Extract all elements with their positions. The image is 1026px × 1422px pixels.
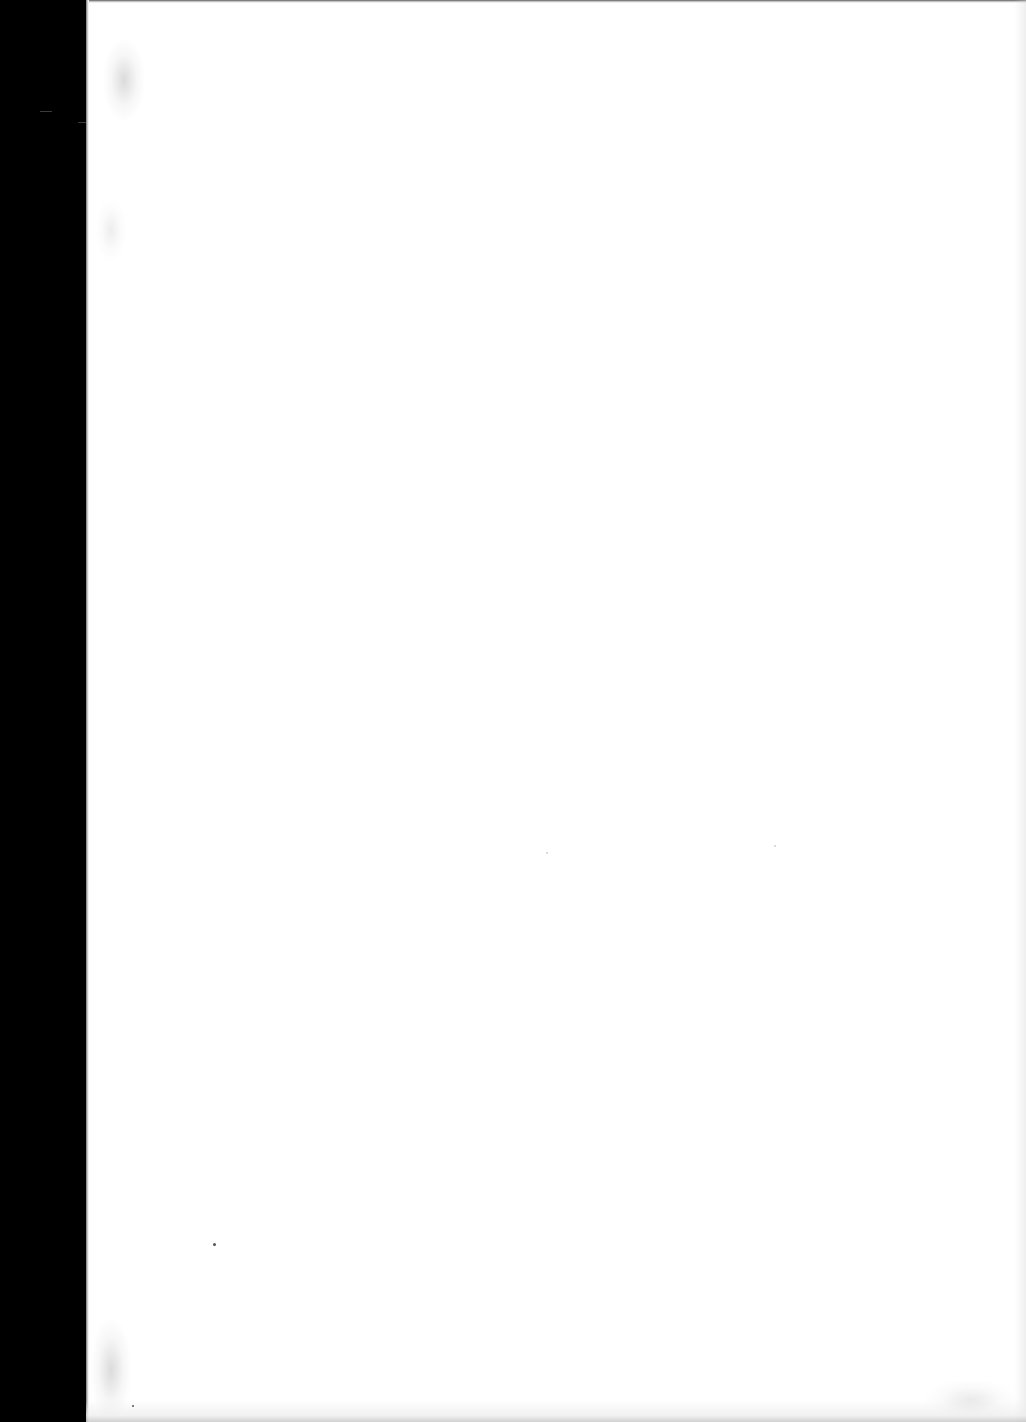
blank-page (86, 0, 1026, 1422)
page-left-edge (86, 0, 89, 1422)
scanned-document (0, 0, 1026, 1422)
scan-dust-speck (213, 1243, 216, 1246)
page-bottom-edge (86, 1400, 1026, 1422)
scan-dust-speck (774, 845, 776, 847)
page-top-edge (86, 0, 1026, 3)
scanner-border (0, 0, 86, 1422)
scan-noise (91, 1320, 131, 1420)
scan-artifact (40, 111, 52, 112)
scan-noise (96, 200, 126, 260)
scan-artifact (78, 122, 86, 123)
scan-dust-speck (546, 852, 548, 854)
scan-noise (926, 1380, 1016, 1420)
page-right-edge (1014, 0, 1026, 1422)
scan-noise (104, 40, 144, 120)
scan-dust-speck (132, 1405, 134, 1407)
